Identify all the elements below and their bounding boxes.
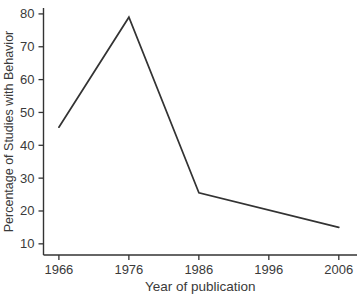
data-line-series — [59, 17, 339, 227]
y-axis-tick-label: 10 — [20, 236, 34, 251]
x-axis-tick-label: 1996 — [254, 262, 283, 277]
line-chart: 102030405060708019661976198619962006Year… — [0, 0, 362, 301]
y-axis-tick-label: 80 — [20, 6, 34, 21]
y-axis-tick-label: 40 — [20, 138, 34, 153]
x-axis-label: Year of publication — [145, 279, 256, 294]
x-axis-tick-label: 1966 — [44, 262, 73, 277]
x-axis-tick-label: 1976 — [114, 262, 143, 277]
y-axis-tick-label: 60 — [20, 72, 34, 87]
y-axis-tick-label: 50 — [20, 105, 34, 120]
y-axis-tick-label: 70 — [20, 39, 34, 54]
line-chart-figure: 102030405060708019661976198619962006Year… — [0, 0, 362, 301]
y-axis-tick-label: 20 — [20, 203, 34, 218]
y-axis-tick-label: 30 — [20, 171, 34, 186]
x-axis-tick-label: 2006 — [324, 262, 353, 277]
y-axis-label: Percentage of Studies with Behavior — [2, 31, 16, 233]
x-axis-tick-label: 1986 — [184, 262, 213, 277]
